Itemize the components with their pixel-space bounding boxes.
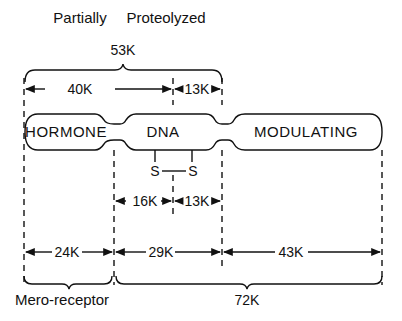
domain-hormone: HORMONE bbox=[24, 124, 108, 140]
segment-43k-label: 43K bbox=[278, 244, 305, 260]
segment-13k-top-label: 13K bbox=[184, 81, 211, 97]
segment-24k-label: 24K bbox=[54, 244, 81, 260]
mero-receptor-label: Mero-receptor bbox=[14, 292, 110, 308]
segment-29k-label: 29K bbox=[148, 244, 175, 260]
brace-mero-receptor bbox=[24, 276, 112, 289]
brace-72k bbox=[116, 276, 382, 289]
segment-16k-label: 16K bbox=[132, 193, 159, 209]
brace-53k bbox=[25, 64, 222, 82]
brace-72k-label: 72K bbox=[234, 292, 261, 308]
domain-dna: DNA bbox=[145, 124, 180, 140]
sulfur-right: S bbox=[187, 163, 198, 179]
brace-53k-label: 53K bbox=[110, 42, 137, 58]
sulfur-left: S bbox=[149, 163, 160, 179]
segment-13k-mid-label: 13K bbox=[184, 193, 211, 209]
title-proteolyzed: Proteolyzed bbox=[125, 10, 206, 26]
segment-40k-label: 40K bbox=[67, 81, 94, 97]
title-partially: Partially bbox=[52, 10, 107, 26]
domain-modulating: MODULATING bbox=[253, 124, 359, 140]
diagram-canvas bbox=[0, 0, 402, 321]
